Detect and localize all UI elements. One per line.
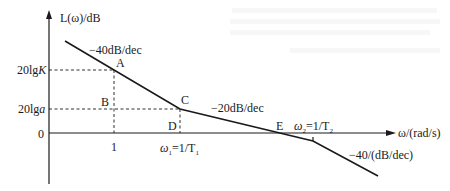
y-axis-label: L(ω)/dB <box>60 11 101 25</box>
y-axis <box>46 10 52 184</box>
point-B-label: B <box>101 95 109 109</box>
x-tick-1: 1 <box>111 140 117 154</box>
y-axis-arrow-icon <box>46 10 52 19</box>
slope-label-segment3: −40/(dB/dec) <box>349 148 413 162</box>
point-E-label: E <box>276 119 283 133</box>
x-axis-arrow-icon <box>386 130 396 136</box>
slope-label-segment2: −20dB/dec <box>211 101 264 115</box>
y-tick-20lga: 20lga <box>18 102 45 116</box>
x-axis-label: ω/(rad/s) <box>398 126 441 140</box>
bode-plot-diagram: L(ω)/dB ω/(rad/s) 0 20lgK 20lga 1 ω1=1/T… <box>0 0 450 191</box>
x-axis <box>49 130 396 136</box>
origin-label: 0 <box>38 127 44 141</box>
guide-lines <box>49 70 180 133</box>
y-tick-20lgK: 20lgK <box>17 63 47 77</box>
omega2-label: ω2=1/T2 <box>294 119 333 135</box>
point-A-label: A <box>116 56 125 70</box>
point-C-label: C <box>181 93 189 107</box>
x-tick-omega1: ω1=1/T1 <box>160 141 199 157</box>
slope-label-segment1: −40dB/dec <box>89 43 142 57</box>
background-bleed-text <box>230 8 440 53</box>
point-D-label: D <box>168 119 177 133</box>
